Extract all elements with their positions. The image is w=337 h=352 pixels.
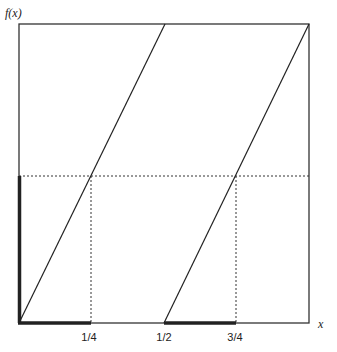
- map-branch-1: [19, 24, 165, 323]
- plot-frame: [19, 24, 309, 323]
- doubling-map-diagram: f(x) x 1/4 1/2 3/4: [0, 0, 337, 352]
- tick-label-quarter: 1/4: [81, 331, 96, 343]
- map-branch-2: [164, 24, 309, 323]
- tick-label-three-quarter: 3/4: [227, 331, 242, 343]
- x-axis-label: x: [317, 317, 324, 331]
- y-axis-label: f(x): [5, 6, 22, 20]
- tick-label-half: 1/2: [156, 331, 171, 343]
